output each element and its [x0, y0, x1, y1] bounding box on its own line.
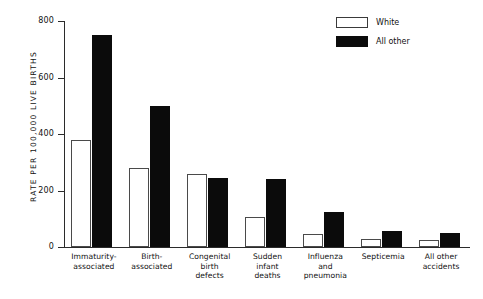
- bar-white: [129, 168, 149, 247]
- bar-group: [71, 21, 112, 247]
- category-label: All otheraccidents: [403, 252, 479, 271]
- y-tick-label: 600: [14, 74, 54, 82]
- bar-all-other: [324, 212, 344, 247]
- legend-swatch-white: [336, 17, 368, 28]
- y-tick-label: 800: [14, 17, 54, 25]
- x-axis-category-labels: Immaturity-associatedBirth-associatedCon…: [65, 252, 470, 297]
- category-label-line: and: [287, 262, 363, 272]
- category-label-line: pneumonia: [287, 271, 363, 281]
- bar-group: [187, 21, 228, 247]
- bar-chart-figure: RATE PER 100,000 LIVE BIRTHS 02004006008…: [0, 0, 483, 299]
- bar-white: [303, 234, 323, 247]
- legend-label: All other: [376, 36, 410, 47]
- x-axis-line: [64, 247, 470, 248]
- legend-item: White: [336, 16, 466, 32]
- bar-group: [361, 21, 402, 247]
- bar-group: [129, 21, 170, 247]
- bar-white: [187, 174, 207, 247]
- legend: WhiteAll other: [336, 16, 466, 54]
- bar-all-other: [92, 35, 112, 247]
- bar-all-other: [440, 233, 460, 247]
- plot-area: [65, 21, 470, 247]
- bar-all-other: [382, 231, 402, 247]
- y-tick-label: 0: [14, 243, 54, 251]
- category-label-line: All other: [403, 252, 479, 262]
- bar-white: [361, 239, 381, 247]
- y-tick-label: 200: [14, 187, 54, 195]
- category-label-line: accidents: [403, 262, 479, 272]
- legend-label: White: [376, 17, 399, 28]
- bar-all-other: [150, 106, 170, 247]
- bar-all-other: [208, 178, 228, 247]
- bar-group: [419, 21, 460, 247]
- bar-white: [245, 217, 265, 247]
- bar-all-other: [266, 179, 286, 247]
- bar-group: [245, 21, 286, 247]
- legend-swatch-black: [336, 36, 368, 47]
- legend-item: All other: [336, 35, 466, 51]
- y-tick-label: 400: [14, 130, 54, 138]
- bar-group: [303, 21, 344, 247]
- bar-white: [419, 240, 439, 247]
- bar-white: [71, 140, 91, 247]
